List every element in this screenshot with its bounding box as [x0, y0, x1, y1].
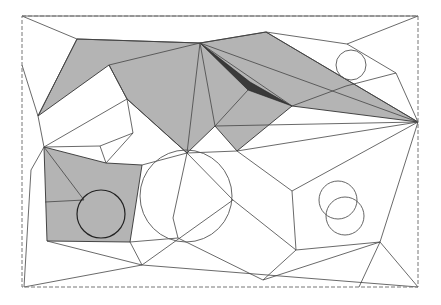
edge-line — [24, 170, 31, 287]
edge-line — [237, 151, 292, 191]
edge-line — [31, 147, 44, 170]
edge-line — [106, 133, 133, 163]
center-large-circle — [140, 150, 232, 242]
edge-line — [142, 153, 187, 165]
edge-line — [187, 151, 237, 153]
right-circle-upper — [319, 181, 357, 219]
edge-line — [347, 44, 396, 73]
edge-line — [130, 238, 178, 242]
edge-line — [100, 133, 133, 146]
top-right-circle — [336, 50, 366, 80]
edge-line — [142, 200, 233, 265]
edge-line — [263, 250, 296, 280]
edge-line — [130, 242, 142, 265]
edge-line — [347, 16, 418, 44]
edge-line — [359, 242, 380, 287]
edge-line — [24, 265, 142, 287]
edge-line — [233, 200, 296, 250]
edge-line — [22, 65, 38, 116]
edge-line — [44, 99, 127, 147]
edge-line — [47, 241, 142, 265]
edge-line — [292, 191, 296, 250]
edge-line — [173, 153, 187, 218]
right-circle-lower — [326, 197, 364, 235]
edge-line — [100, 146, 106, 163]
edge-line — [38, 116, 44, 147]
edge-line — [187, 153, 233, 200]
edge-line — [380, 242, 418, 287]
lower-left-shaded-region — [44, 147, 142, 242]
diagram-canvas — [0, 0, 441, 305]
upper-shaded-region — [38, 32, 418, 153]
edge-line — [22, 16, 77, 39]
shaded-regions — [38, 32, 418, 242]
edge-line — [173, 218, 178, 238]
edge-line — [142, 265, 418, 287]
edge-line — [44, 146, 100, 147]
